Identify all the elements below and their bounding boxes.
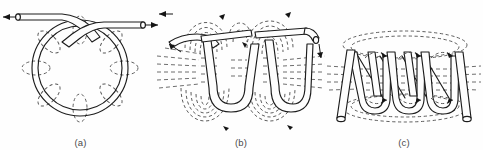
magnetic-field-figure: (a) [0, 0, 483, 150]
panel-a-caption: (a) [0, 137, 161, 148]
panel-b-field-axial-right [283, 56, 325, 88]
panel-c-field-arrows-bottom [365, 98, 453, 104]
panel-b-field-axial-left [157, 48, 201, 88]
panel-b-field-interior-mid [231, 60, 247, 76]
figure-panel-b: (b) [155, 0, 327, 150]
figure-panel-a: (a) [0, 0, 161, 150]
figure-panel-c: (c) [325, 0, 483, 150]
panel-c-caption: (c) [325, 137, 483, 148]
panel-a-leads [16, 14, 146, 47]
panel-b-caption: (b) [155, 137, 327, 148]
